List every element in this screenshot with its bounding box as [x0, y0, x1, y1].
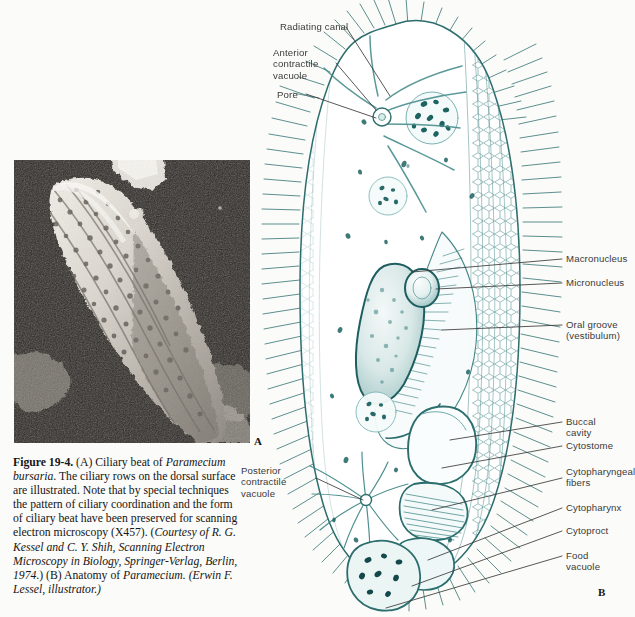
- label-posterior-contractile-vacuole: Posterior contractile vacuole: [241, 465, 286, 499]
- buccal-cavity: [408, 407, 476, 485]
- food-vacuole: [347, 541, 420, 611]
- label-anterior-contractile-vacuole: Anterior contractile vacuole: [273, 47, 318, 81]
- anterior-contractile-vacuole: [406, 92, 458, 144]
- label-buccal-cavity: Buccal cavity: [566, 416, 623, 439]
- figure-caption: Figure 19-4. (A) Ciliary beat of Paramec…: [13, 456, 241, 597]
- pore-structure: [373, 108, 391, 126]
- caption-figure-number: Figure 19-4.: [13, 456, 73, 469]
- label-pore: Pore: [277, 89, 298, 100]
- caption-species-2: Paramecium.: [123, 569, 186, 582]
- label-cytopharyngeal-fibers: Cytopharyngeal fibers: [566, 466, 635, 489]
- label-cytopharynx: Cytopharynx: [566, 502, 622, 513]
- label-cytostome: Cytostome: [566, 440, 613, 451]
- caption-part-a: (A) Ciliary beat of: [73, 456, 166, 469]
- label-macronucleus: Macronucleus: [566, 253, 628, 264]
- label-cytoproct: Cytoproct: [566, 525, 608, 536]
- label-micronucleus: Micronucleus: [566, 277, 624, 288]
- label-oral-groove: Oral groove (vestibulum): [566, 319, 620, 342]
- caption-body-2: ) (B) Anatomy of: [39, 569, 123, 582]
- sem-micrograph-panel: [14, 160, 250, 443]
- posterior-vacuole-secondary: [356, 392, 396, 432]
- label-radiating-canal: Radiating canal: [280, 21, 348, 32]
- label-food-vacuole: Food vacuole: [566, 550, 623, 573]
- panel-b-letter: B: [598, 586, 605, 598]
- micronucleus: [405, 269, 439, 307]
- sem-micrograph-image: [14, 160, 250, 443]
- anterior-vacuole-secondary: [369, 177, 407, 215]
- cytostome: [400, 483, 468, 540]
